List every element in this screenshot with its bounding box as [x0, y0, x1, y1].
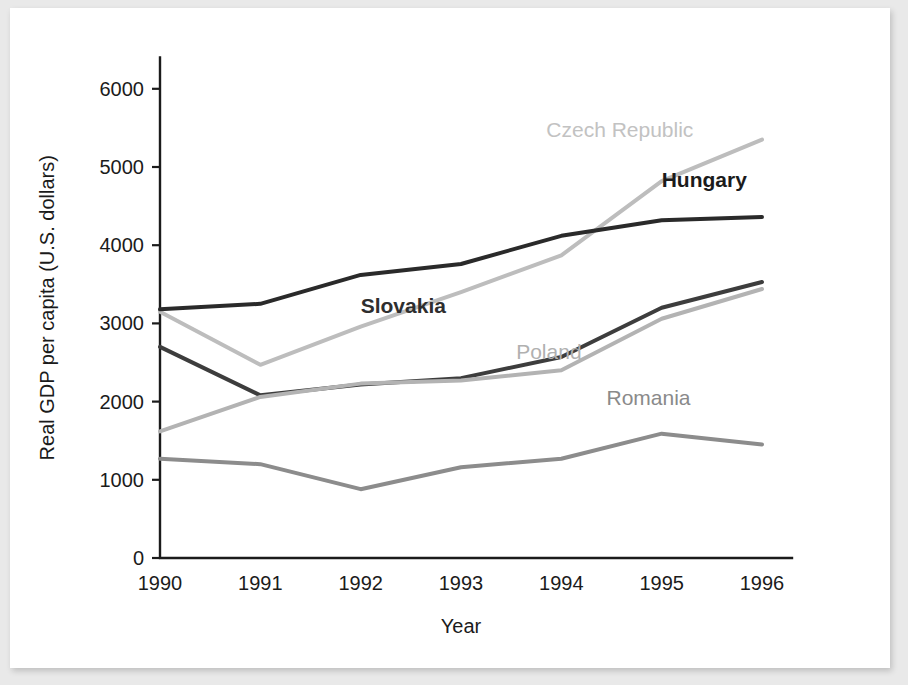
x-tick-label: 1995: [639, 572, 684, 594]
x-tick-label: 1992: [338, 572, 383, 594]
figure-card: 0100020003000400050006000 19901991199219…: [10, 8, 890, 668]
x-tick-labels: 1990199119921993199419951996: [138, 572, 785, 594]
x-tick-label: 1996: [740, 572, 785, 594]
y-tick-label: 5000: [100, 156, 145, 178]
x-tick-label: 1994: [539, 572, 584, 594]
series-label-slovakia: Slovakia: [361, 294, 447, 317]
series-line-romania: [160, 434, 762, 490]
series-label-czech-republic: Czech Republic: [546, 118, 693, 141]
line-chart: 0100020003000400050006000 19901991199219…: [10, 8, 890, 668]
x-tick-label: 1991: [238, 572, 283, 594]
y-tick-label: 2000: [100, 391, 145, 413]
x-tick-label: 1990: [138, 572, 183, 594]
x-axis-title: Year: [441, 615, 482, 637]
series-labels: Czech RepublicHungarySlovakiaPolandRoman…: [361, 118, 747, 408]
y-tick-label: 1000: [100, 469, 145, 491]
y-axis-title: Real GDP per capita (U.S. dollars): [36, 155, 58, 460]
y-tick-label: 3000: [100, 312, 145, 334]
series-label-poland: Poland: [516, 340, 581, 363]
y-tick-label: 0: [133, 547, 144, 569]
series-label-romania: Romania: [606, 386, 690, 409]
series-line-slovakia: [160, 282, 762, 395]
series-line-hungary: [160, 217, 762, 309]
y-tick-label: 6000: [100, 78, 145, 100]
chart-canvas: 0100020003000400050006000 19901991199219…: [10, 8, 890, 668]
series-label-hungary: Hungary: [662, 168, 748, 191]
y-tick-label: 4000: [100, 234, 145, 256]
series-lines: [160, 140, 762, 490]
y-tick-labels: 0100020003000400050006000: [100, 78, 161, 569]
x-tick-label: 1993: [439, 572, 484, 594]
